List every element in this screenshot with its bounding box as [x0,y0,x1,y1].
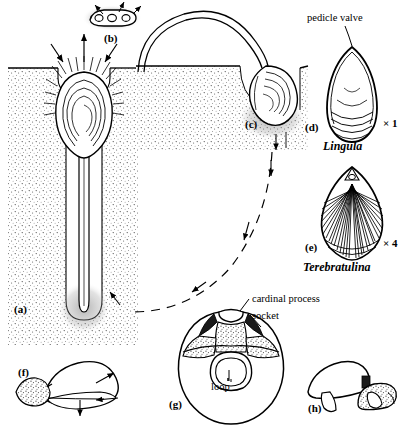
panel-label-e: (e) [305,241,318,254]
magnification-terebratulina: × 4 [383,237,398,249]
callout-pedicle-valve: pedicle valve [307,12,363,23]
panel-label-g: (g) [169,398,182,411]
brachiopod-figure: (a) (b) (c) [0,0,408,435]
panel-label-d: (d) [305,121,319,134]
foramen [349,174,356,179]
panel-label-f: (f) [18,366,29,379]
panel-label-c: (c) [245,118,258,131]
larva-lobe-2 [108,14,117,21]
magnification-lingula: × 1 [383,117,398,129]
panel-label-h: (h) [308,402,322,415]
panel-label-a: (a) [14,303,27,316]
hinge-plate [215,322,246,352]
genus-terebratulina: Terebratulina [303,260,371,274]
callout-socket: socket [252,310,279,321]
larva-lobe-1 [95,15,103,22]
genus-lingula: Lingula [322,139,362,153]
larva-lobe-3 [122,15,130,22]
callout-loop: loop [211,381,230,392]
panel-label-b: (b) [104,32,118,45]
callout-cardinal-process: cardinal process [252,293,320,304]
